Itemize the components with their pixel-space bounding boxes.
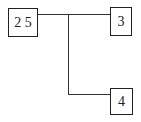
connector-horizontal-bottom xyxy=(68,94,110,95)
node-root-label: 2 5 xyxy=(14,15,32,31)
node-child-1: 3 xyxy=(110,7,132,36)
connector-vertical xyxy=(68,14,69,95)
node-root: 2 5 xyxy=(8,8,38,37)
node-child-1-label: 3 xyxy=(118,14,125,30)
node-child-2: 4 xyxy=(110,88,133,115)
node-child-2-label: 4 xyxy=(118,94,125,110)
connector-horizontal-top xyxy=(38,14,110,15)
